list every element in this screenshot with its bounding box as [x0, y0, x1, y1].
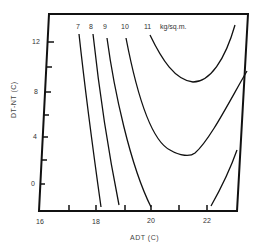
contour-chart: 7 8 9 10 11 kg/sq.m. 12 8 4 0 16 18 20 2…	[0, 0, 256, 251]
y-tick-label-4: 4	[33, 133, 37, 140]
y-tick-label-0: 0	[31, 180, 35, 187]
contour-9	[107, 38, 151, 207]
x-tick-label-22: 22	[203, 217, 211, 224]
curve-label-11: 11	[144, 23, 151, 30]
plot-frame	[39, 14, 248, 211]
curve-label-8: 8	[89, 23, 93, 30]
x-tick-label-20: 20	[147, 217, 155, 224]
x-tick-label-16: 16	[36, 218, 44, 225]
units-label: kg/sq.m.	[160, 23, 186, 30]
contour-10	[126, 38, 247, 155]
x-axis-title: ADT (C)	[130, 234, 159, 241]
curve-label-9: 9	[103, 23, 107, 30]
y-tick-label-12: 12	[32, 38, 40, 45]
curve-label-10: 10	[121, 23, 129, 30]
contour-11	[150, 25, 235, 82]
y-tick-label-8: 8	[34, 88, 38, 95]
contour-12-partial	[211, 150, 237, 206]
x-tick-label-18: 18	[92, 218, 100, 225]
contour-7	[79, 34, 101, 207]
y-axis-title: DT-NT (C)	[10, 81, 17, 118]
curve-label-7: 7	[76, 23, 80, 30]
